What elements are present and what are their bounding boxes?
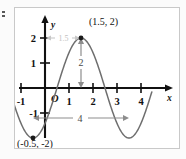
figure-frame: -1 1 2 3 4 2 1 -1 O y x 2 xyxy=(14,7,180,149)
chart-screenshot: -1 1 2 3 4 2 1 -1 O y x 2 xyxy=(0,0,186,159)
maximum-point-label: (1.5, 2) xyxy=(89,16,118,28)
phase-shift-label: 1.5 xyxy=(59,34,69,43)
edge-mark-icon xyxy=(2,11,5,20)
minimum-point-label: (-0.5, -2) xyxy=(17,138,53,148)
amplitude-label: 2 xyxy=(79,57,84,68)
maximum-point-marker xyxy=(79,36,84,41)
period-label: 4 xyxy=(78,113,83,124)
sinusoid-plot: -1 1 2 3 4 2 1 -1 O y x 2 xyxy=(15,8,179,148)
